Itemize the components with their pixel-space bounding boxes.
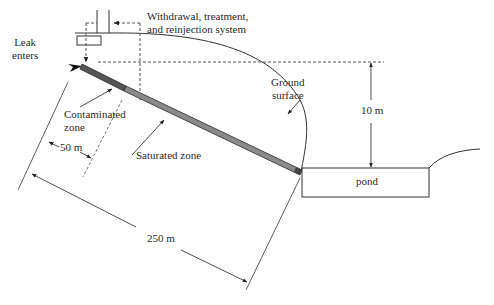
- leak-arrow-icon: [68, 64, 82, 72]
- leak-label: Leak enters: [12, 36, 38, 62]
- diagram-canvas: Withdrawal, treatment, and reinjection s…: [0, 0, 494, 305]
- contaminated-label-line2: zone: [64, 121, 126, 134]
- ground-surface-label: Ground surface: [271, 76, 305, 102]
- dimension-left-extension: [18, 82, 68, 190]
- contaminated-label-line1: Contaminated: [64, 108, 126, 121]
- dimension-right-extension: [246, 178, 300, 290]
- system-label-line1: Withdrawal, treatment,: [147, 10, 248, 23]
- system-label: Withdrawal, treatment, and reinjection s…: [147, 10, 248, 36]
- leak-label-line2: enters: [12, 49, 38, 62]
- total-length-label: 250 m: [147, 232, 175, 245]
- right-bank-line: [429, 149, 480, 168]
- contaminated-zone-label: Contaminated zone: [64, 108, 126, 134]
- leak-label-line1: Leak: [12, 36, 38, 49]
- pond-label: pond: [356, 175, 378, 188]
- ground-label-line1: Ground: [271, 76, 305, 89]
- contaminated-length-label: 50 m: [60, 141, 82, 154]
- depth-label: 10 m: [361, 104, 383, 117]
- ground-pointer: [288, 100, 300, 114]
- dimension-250m-arrow-right: [181, 250, 247, 282]
- treatment-box: [77, 36, 101, 45]
- system-label-line2: and reinjection system: [147, 23, 248, 36]
- saturated-zone-label: Saturated zone: [136, 149, 201, 162]
- ground-label-line2: surface: [271, 89, 305, 102]
- dimension-250m-arrow-left: [32, 174, 136, 227]
- dimension-50m-arrow-left: [49, 142, 59, 147]
- contaminated-pointer: [80, 89, 112, 107]
- contaminated-zone-pipe: [80, 64, 126, 91]
